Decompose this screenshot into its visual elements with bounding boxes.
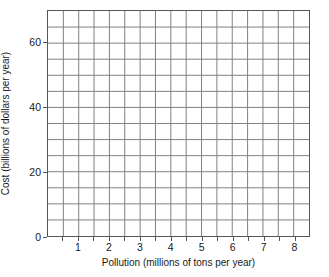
x-tick-label: 1 — [75, 242, 81, 253]
x-tick-mark — [248, 237, 249, 241]
y-tick-label: 60 — [29, 37, 41, 48]
x-tick-label: 8 — [292, 242, 298, 253]
y-tick-mark — [43, 237, 47, 238]
chart-figure: 12345678 0204060 Pollution (millions of … — [0, 0, 329, 277]
x-tick-label: 3 — [137, 242, 143, 253]
horizontal-gridlines — [48, 27, 309, 220]
x-tick-label: 5 — [199, 242, 205, 253]
x-tick-mark — [186, 237, 187, 241]
y-tick-label: 20 — [29, 167, 41, 178]
y-tick-mark — [43, 172, 47, 173]
y-tick-mark — [43, 107, 47, 108]
y-tick-label: 40 — [29, 102, 41, 113]
y-tick-label: 0 — [35, 232, 41, 243]
x-tick-mark — [155, 237, 156, 241]
x-tick-label: 6 — [230, 242, 236, 253]
grid-lines — [48, 11, 309, 236]
x-tick-mark — [124, 237, 125, 241]
x-tick-label: 7 — [261, 242, 267, 253]
x-tick-mark — [279, 237, 280, 241]
y-axis-title: Cost (billions of dollars per year) — [0, 10, 14, 237]
y-tick-mark — [43, 42, 47, 43]
x-tick-label: 4 — [168, 242, 174, 253]
x-tick-mark — [217, 237, 218, 241]
x-tick-mark — [93, 237, 94, 241]
plot-area[interactable] — [47, 10, 310, 237]
x-tick-label: 2 — [106, 242, 112, 253]
x-tick-mark — [62, 237, 63, 241]
x-axis-title: Pollution (millions of tons per year) — [47, 257, 310, 268]
